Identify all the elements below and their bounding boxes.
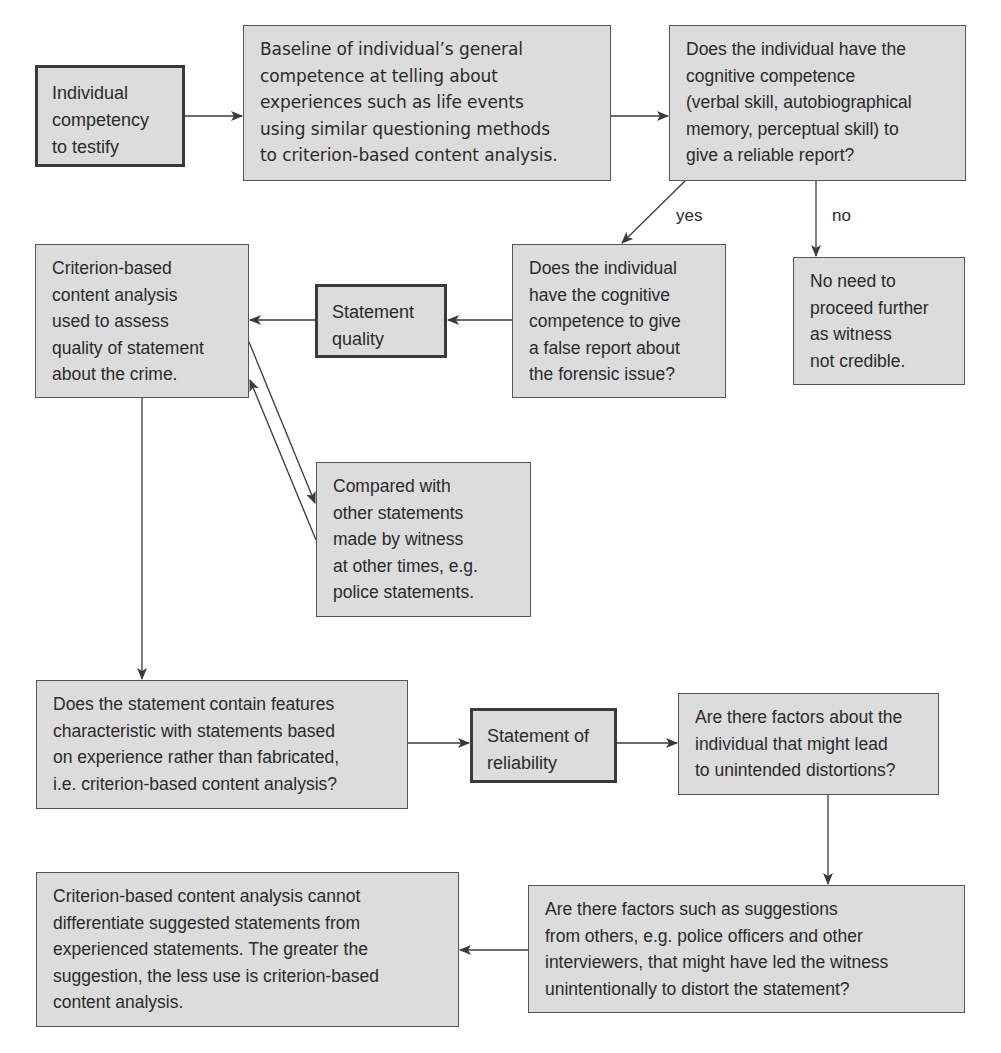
node-cognitive-reliable: Does the individual have the cognitive c… — [669, 25, 966, 181]
edge-label-no: no — [832, 206, 851, 226]
arrow-compared-to-cbca — [250, 380, 316, 540]
arrow-cbca-to-compared — [249, 342, 315, 503]
node-cognitive-false: Does the individual have the cognitive c… — [512, 244, 726, 398]
node-cbca-limitation: Criterion-based content analysis cannot … — [36, 872, 459, 1027]
edge-label-yes: yes — [676, 206, 702, 226]
node-not-credible: No need to proceed further as witness no… — [793, 257, 965, 385]
node-statement-reliability: Statement of reliability — [470, 708, 617, 783]
node-suggestion-factors: Are there factors such as suggestions fr… — [528, 885, 965, 1013]
node-features-question: Does the statement contain features char… — [36, 680, 408, 809]
node-individual-competency: Individual competency to testify — [35, 65, 185, 167]
node-individual-factors: Are there factors about the individual t… — [678, 693, 939, 795]
node-cbca-quality: Criterion-based content analysis used to… — [35, 244, 249, 398]
node-statement-quality: Statement quality — [315, 284, 447, 358]
node-compared-with: Compared with other statements made by w… — [316, 462, 531, 617]
node-baseline: Baseline of individual’s general compete… — [243, 25, 611, 181]
